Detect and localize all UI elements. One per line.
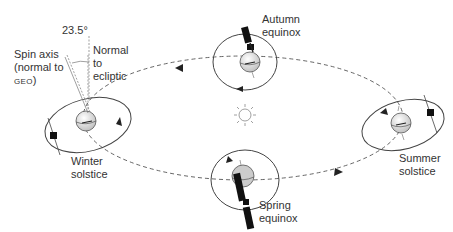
satellite-icon <box>427 109 434 116</box>
arrow-icon <box>116 117 122 126</box>
winter-solstice-label: Winter solstice <box>71 155 108 181</box>
arrow-icon <box>236 86 243 92</box>
arrow-icon <box>175 64 183 72</box>
arrow-icon <box>226 156 233 163</box>
axis-angle-label: 23.5° <box>62 24 88 37</box>
spring-equinox-label: Spring equinox <box>259 199 298 225</box>
sun-icon <box>234 104 256 126</box>
earth-globe <box>240 52 260 72</box>
earth-globe <box>76 111 96 131</box>
orbit-direction-arrows <box>175 64 343 176</box>
satellite-icon <box>241 26 254 52</box>
satellite-icon <box>50 132 57 139</box>
earth-globe <box>391 113 411 133</box>
normal-to-ecliptic-label: Normal to ecliptic <box>93 44 128 83</box>
arrow-icon <box>380 108 388 115</box>
summer-solstice-system <box>356 91 450 159</box>
summer-solstice-label: Summer solstice <box>399 152 441 178</box>
arrow-icon <box>334 168 343 176</box>
spin-axis-label: Spin axis (normal to GEO) <box>14 48 64 88</box>
autumn-equinox-label: Autumn equinox <box>262 13 301 39</box>
